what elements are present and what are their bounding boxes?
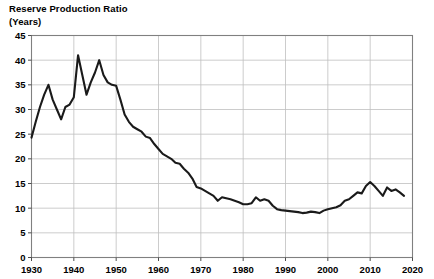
plot-border (32, 36, 413, 258)
y-axis-tick-label: 15 (15, 178, 26, 189)
x-axis-tick-label: 1950 (106, 264, 127, 275)
y-axis-tick-label: 20 (15, 153, 26, 164)
y-axis-tick-label: 0 (20, 252, 25, 263)
grid-lines (32, 36, 413, 258)
reserve-production-ratio-chart: Reserve Production Ratio (Years) 0510152… (0, 0, 434, 279)
x-axis-tick-label: 1940 (63, 264, 84, 275)
x-axis-tick-label: 1930 (21, 264, 42, 275)
x-axis-tick-label: 2010 (360, 264, 381, 275)
x-axis-tick-label: 1960 (148, 264, 169, 275)
x-axis-tick-label: 1970 (190, 264, 211, 275)
x-axis-tick-label: 2020 (402, 264, 423, 275)
x-axis-tick-label: 1980 (233, 264, 254, 275)
plot-frame (32, 36, 413, 258)
y-axis-tick-label: 10 (15, 203, 26, 214)
y-axis-tick-label: 35 (15, 79, 26, 90)
chart-plot-area: 0510152025303540451930194019501960197019… (0, 0, 434, 279)
y-axis-tick-label: 25 (15, 129, 26, 140)
axis-ticks (28, 36, 413, 262)
y-axis-tick-label: 45 (15, 30, 26, 41)
y-axis-tick-label: 5 (20, 227, 26, 238)
x-axis-tick-label: 1990 (275, 264, 296, 275)
y-axis-tick-label: 40 (15, 55, 26, 66)
y-axis-tick-label: 30 (15, 104, 26, 115)
x-axis-tick-label: 2000 (317, 264, 338, 275)
